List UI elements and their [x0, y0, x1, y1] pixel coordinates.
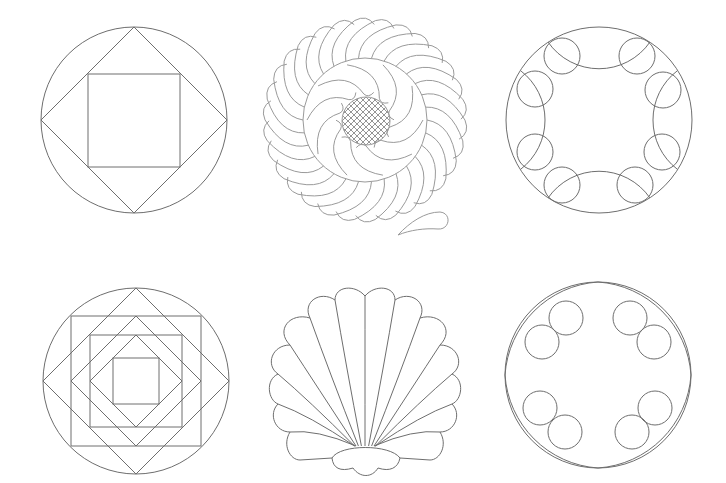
quilting-pattern-sheet	[0, 0, 726, 483]
pattern-feathered-wreath	[263, 18, 466, 235]
crosshatch-center	[266, 81, 466, 161]
tail-feather	[398, 212, 448, 235]
pattern-ring-eight-circles	[505, 282, 691, 468]
pattern-nested-squares	[43, 288, 229, 474]
pattern-four-arcs-eight-circles	[506, 27, 692, 213]
pattern-square-diamond-circle	[41, 27, 227, 213]
pattern-scallop-shell	[269, 288, 460, 475]
